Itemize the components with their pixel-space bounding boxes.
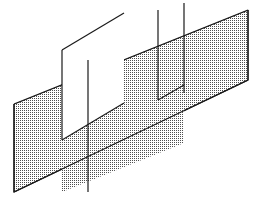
parallelogram-planes-diagram (0, 0, 262, 207)
figure-root: Three overlapping parallelogram planes i… (0, 0, 262, 207)
